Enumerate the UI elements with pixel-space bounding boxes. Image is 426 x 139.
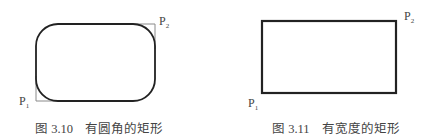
point-subscript: 2 bbox=[166, 22, 170, 30]
diagram-canvas bbox=[0, 0, 426, 139]
bounding-guide-bottom-left bbox=[36, 76, 61, 101]
point-label-p2-fig-3-10: P2 bbox=[159, 15, 169, 30]
rounded-rectangle bbox=[36, 24, 155, 101]
figure-3-10-drawing bbox=[36, 24, 155, 101]
caption-text: 有宽度的矩形 bbox=[322, 122, 400, 136]
point-label-p1-fig-3-10: P1 bbox=[19, 95, 29, 110]
caption-number: 图 3.10 bbox=[35, 122, 73, 136]
caption-number: 图 3.11 bbox=[272, 122, 310, 136]
figure-3-11-drawing bbox=[262, 21, 396, 93]
thick-rectangle bbox=[262, 21, 396, 93]
point-subscript: 1 bbox=[26, 102, 30, 110]
point-letter: P bbox=[159, 14, 166, 28]
point-label-p2-fig-3-11: P2 bbox=[404, 10, 414, 25]
point-letter: P bbox=[404, 9, 411, 23]
caption-text: 有圆角的矩形 bbox=[85, 122, 163, 136]
caption-fig-3-11: 图 3.11有宽度的矩形 bbox=[272, 123, 400, 136]
point-label-p1-fig-3-11: P1 bbox=[248, 97, 258, 112]
point-subscript: 1 bbox=[255, 104, 259, 112]
point-letter: P bbox=[19, 94, 26, 108]
caption-fig-3-10: 图 3.10有圆角的矩形 bbox=[35, 123, 163, 136]
bounding-guide-top-right bbox=[130, 24, 155, 49]
point-subscript: 2 bbox=[411, 17, 415, 25]
point-letter: P bbox=[248, 96, 255, 110]
